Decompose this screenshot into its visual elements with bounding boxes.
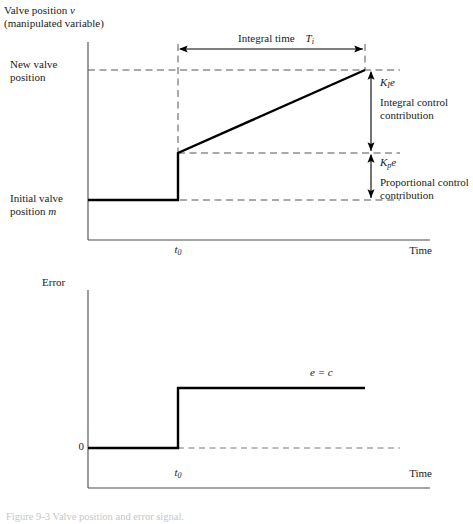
label-proportional-contribution: Proportional controlcontribution (380, 176, 472, 202)
label-integral-time: Integral time Ti (186, 32, 366, 48)
integral-time-text: Integral time (238, 32, 295, 44)
bottom-chart-axis-title: Error (42, 276, 102, 289)
valve-position-title-line2: (manipulated variable) (4, 17, 104, 29)
top-chart-axis-title: Valve position v(manipulated variable) (4, 4, 174, 30)
top-chart-group (88, 42, 430, 240)
proportional-contribution-line1: Proportional control (380, 176, 469, 188)
error-step-curve (88, 388, 365, 448)
top-chart-x-axis-label: Time (372, 244, 432, 257)
figure-container: Valve position v(manipulated variable) N… (0, 0, 473, 524)
valve-position-title-line1: Valve position v (4, 4, 75, 16)
label-new-valve-position: New valveposition (10, 58, 86, 84)
proportional-contribution-line2: contribution (380, 189, 434, 201)
valve-position-curve (88, 70, 365, 200)
initial-valve-line1: Initial valve (10, 192, 63, 204)
bottom-chart-x-tick-t0: t0 (160, 466, 196, 482)
new-valve-line2: position (10, 71, 45, 83)
bottom-chart-x-axis-label: Time (372, 467, 432, 480)
label-error-equals-c: e = c (310, 366, 370, 379)
new-valve-line1: New valve (10, 58, 57, 70)
label-integral-gain-term: KIe (380, 76, 450, 92)
label-proportional-gain-term: Kpe (380, 156, 450, 172)
integral-contribution-line1: Integral control (380, 96, 448, 108)
bottom-chart-y-tick-zero: 0 (66, 440, 84, 453)
integral-contribution-line2: contribution (380, 109, 434, 121)
top-chart-x-tick-t0: t0 (160, 243, 196, 259)
initial-valve-line2: position m (10, 205, 56, 217)
integral-time-symbol: Ti (306, 32, 314, 44)
figure-caption: Figure 9-3 Valve position and error sign… (6, 511, 446, 522)
bottom-chart-group (88, 290, 430, 488)
label-integral-contribution: Integral controlcontribution (380, 96, 472, 122)
label-initial-valve-position: Initial valveposition m (10, 192, 86, 218)
